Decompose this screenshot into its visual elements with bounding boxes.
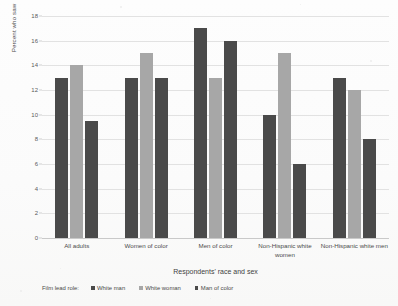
legend: Film lead role: White manWhite womanMan … <box>42 285 389 291</box>
gridline <box>42 238 389 239</box>
bar-group <box>250 16 319 238</box>
x-axis-category-labels: All adultsWomen of colorMen of colorNon-… <box>42 242 389 259</box>
y-axis-tick-label: 16 <box>31 38 38 44</box>
y-axis-tick-label: 18 <box>31 13 38 19</box>
bar[interactable] <box>194 28 207 238</box>
bar-groups <box>42 16 389 238</box>
legend-swatch-icon <box>139 286 143 290</box>
x-axis-category-label: Men of color <box>181 242 250 259</box>
bar[interactable] <box>140 53 153 238</box>
x-axis-category-label: Non-Hispanic white women <box>250 242 319 259</box>
bar[interactable] <box>125 78 138 238</box>
legend-title: Film lead role: <box>42 285 79 291</box>
legend-item[interactable]: White woman <box>139 285 181 291</box>
y-axis-tick-label: 10 <box>31 112 38 118</box>
y-axis-tick-label: 6 <box>35 161 38 167</box>
x-axis-category-label: All adults <box>42 242 111 259</box>
bar[interactable] <box>263 115 276 238</box>
bar[interactable] <box>224 41 237 238</box>
legend-swatch-icon <box>195 286 199 290</box>
bar-group <box>320 16 389 238</box>
bar[interactable] <box>293 164 306 238</box>
plot-area: 024681012141618 <box>42 16 389 238</box>
y-axis-tick-label: 8 <box>35 136 38 142</box>
legend-swatch-icon <box>91 286 95 290</box>
bar[interactable] <box>348 90 361 238</box>
y-axis-tick-label: 4 <box>35 186 38 192</box>
x-axis-title: Respondents' race and sex <box>42 268 389 275</box>
bar[interactable] <box>155 78 168 238</box>
bar[interactable] <box>363 139 376 238</box>
bar-group <box>42 16 111 238</box>
bar[interactable] <box>85 121 98 238</box>
legend-label: Man of color <box>201 285 233 291</box>
bar-chart: Percent who saw 024681012141618 All adul… <box>0 0 398 306</box>
y-axis-tick-label: 14 <box>31 62 38 68</box>
bar[interactable] <box>55 78 68 238</box>
bar[interactable] <box>209 78 222 238</box>
legend-item[interactable]: White man <box>91 285 125 291</box>
bar[interactable] <box>70 65 83 238</box>
bar[interactable] <box>278 53 291 238</box>
legend-items: White manWhite womanMan of color <box>91 285 233 291</box>
y-axis-title-container: Percent who saw <box>8 18 20 233</box>
bar-group <box>181 16 250 238</box>
y-axis-tick-label: 2 <box>35 210 38 216</box>
y-axis-title: Percent who saw <box>10 0 17 88</box>
legend-item[interactable]: Man of color <box>195 285 233 291</box>
bar[interactable] <box>333 78 346 238</box>
legend-label: White woman <box>145 285 181 291</box>
y-axis-tick-label: 0 <box>35 235 38 241</box>
bar-group <box>111 16 180 238</box>
y-axis-tick-label: 12 <box>31 87 38 93</box>
legend-label: White man <box>97 285 125 291</box>
x-axis-category-label: Women of color <box>111 242 180 259</box>
x-axis-category-label: Non-Hispanic white men <box>320 242 389 259</box>
